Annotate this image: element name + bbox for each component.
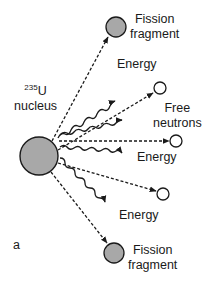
fission-diagram-graphic (0, 0, 219, 288)
panel-label: a (13, 238, 20, 253)
energy-top-label: Energy (117, 57, 157, 72)
free-neutrons-label-line2: neutrons (153, 116, 202, 131)
wavy-arrow-energy-bottom (60, 158, 105, 202)
fission-fragment-bottom-label-line1: Fission (128, 243, 177, 258)
arrow-to-fission-fragment-top (52, 37, 108, 141)
fission-fragment-bottom-label-line2: fragment (128, 258, 177, 273)
arrow-to-free-neutron-3 (58, 163, 156, 191)
nucleus-label: 235U nucleus (14, 84, 57, 114)
fission-diagram: Fission fragment Energy 235U nucleus Fre… (0, 0, 219, 288)
fission-fragment-top-label-line2: fragment (130, 27, 179, 42)
free-neutrons-label: Free neutrons (153, 101, 202, 131)
energy-bottom-label: Energy (119, 208, 159, 223)
nucleus-label-line2: nucleus (14, 99, 57, 114)
fission-fragment-top (106, 17, 126, 37)
arrow-to-fission-fragment-bottom (51, 172, 107, 243)
fission-fragment-bottom-label: Fission fragment (128, 243, 177, 273)
nucleus-label-isotope: 235U (14, 84, 57, 99)
fission-fragment-top-label-line1: Fission (130, 12, 179, 27)
fission-fragment-top-label: Fission fragment (130, 12, 179, 42)
fission-fragment-bottom (104, 243, 124, 263)
mass-number: 235 (24, 83, 37, 92)
free-neutron-1 (154, 82, 166, 94)
energy-middle-label: Energy (137, 150, 177, 165)
free-neutron-2 (170, 135, 182, 147)
uranium-235-nucleus (20, 137, 58, 175)
free-neutron-3 (157, 188, 169, 200)
element-symbol: U (38, 84, 47, 98)
wavy-arrow-energy-lower-right (60, 146, 122, 154)
free-neutrons-label-line1: Free (153, 101, 202, 116)
